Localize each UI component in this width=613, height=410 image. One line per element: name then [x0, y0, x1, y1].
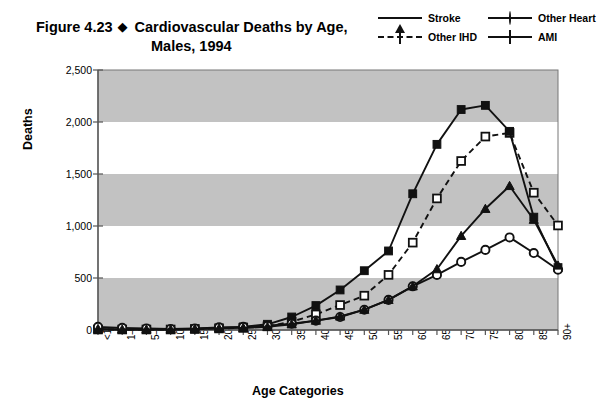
series-marker-other-heart — [481, 246, 489, 254]
series-marker-other-heart — [530, 249, 538, 257]
plot-band — [98, 174, 558, 226]
series-marker-ami — [481, 101, 489, 109]
series-marker-other-ihd — [530, 189, 538, 197]
plot-band — [98, 278, 558, 330]
plot-band — [98, 70, 558, 122]
series-marker-other-heart — [457, 258, 465, 266]
series-marker-other-ihd — [433, 195, 441, 203]
series-marker-other-ihd — [481, 133, 489, 141]
series-marker-other-ihd — [336, 301, 344, 309]
series-marker-other-ihd — [554, 222, 562, 230]
chart-canvas — [0, 0, 613, 410]
series-marker-ami — [409, 190, 417, 198]
series-marker-other-ihd — [409, 239, 417, 247]
series-marker-ami — [506, 127, 514, 135]
series-marker-other-heart — [505, 233, 513, 241]
chart-plot-area: Deaths Age Categories 05001,0001,5002,00… — [0, 0, 613, 410]
figure-container: Figure 4.23◆Cardiovascular Deaths by Age… — [0, 0, 613, 410]
series-marker-ami — [336, 286, 344, 294]
series-marker-ami — [385, 247, 393, 255]
series-marker-ami — [312, 302, 320, 310]
series-marker-other-ihd — [385, 271, 393, 279]
series-marker-other-ihd — [457, 157, 465, 165]
series-marker-ami — [360, 267, 368, 275]
series-marker-ami — [457, 106, 465, 114]
series-marker-ami — [433, 140, 441, 148]
series-marker-other-ihd — [360, 292, 368, 300]
